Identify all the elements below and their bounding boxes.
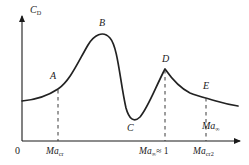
tick-label-ma-cr: Macr — [46, 147, 64, 157]
figure-container: CD Ma∞ 0 Macr Ma∞≈ 1 Macr2 A B C D E — [0, 0, 249, 165]
x-axis-label-main: Ma — [202, 120, 215, 131]
tick-label-ma-one-main: Ma — [139, 146, 152, 156]
tick-label-ma-cr-main: Ma — [46, 146, 59, 156]
point-label-b: B — [99, 18, 105, 28]
origin-label: 0 — [15, 146, 20, 156]
point-label-a: A — [50, 71, 56, 81]
x-axis-label-sub: ∞ — [215, 125, 220, 132]
x-axis-label: Ma∞ — [202, 121, 220, 131]
tick-label-ma-cr2-main: Ma — [193, 146, 206, 156]
tick-label-ma-cr2-sub: cr2 — [206, 150, 214, 157]
tick-label-ma-cr-sub: cr — [59, 150, 64, 157]
y-axis-label-sub: D — [37, 9, 42, 16]
tick-label-ma-cr2: Macr2 — [193, 147, 214, 157]
point-label-e: E — [203, 81, 209, 91]
y-axis-label-main: C — [30, 4, 37, 15]
y-axis-label: CD — [30, 5, 41, 15]
tick-label-ma-one-extra: ≈ 1 — [156, 146, 168, 156]
tick-label-ma-one: Ma∞≈ 1 — [139, 147, 169, 157]
plot-svg — [0, 0, 249, 165]
point-label-c: C — [127, 123, 134, 133]
point-label-d: D — [162, 54, 169, 64]
tick-label-ma-one-sub: ∞ — [152, 150, 157, 157]
